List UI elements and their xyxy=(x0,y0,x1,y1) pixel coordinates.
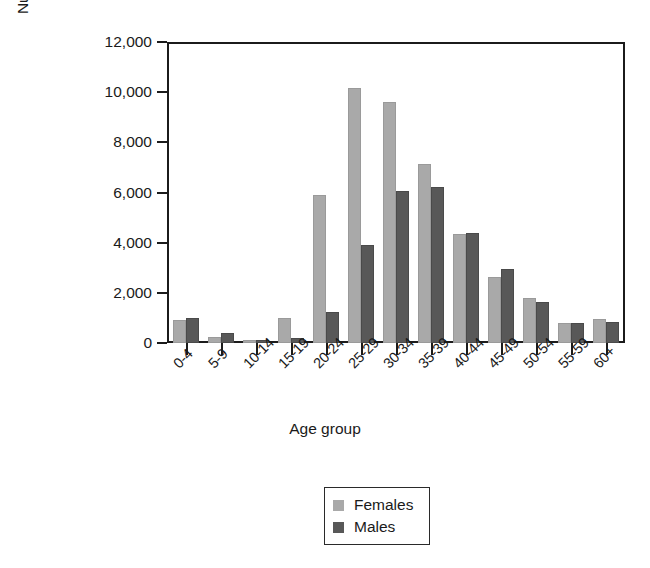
x-axis-tick-label: 5-9 xyxy=(205,346,231,372)
y-axis-tick xyxy=(157,91,167,93)
y-axis-tick-label: 0 xyxy=(56,334,152,352)
bar-group xyxy=(483,44,518,343)
bar-females-30-34 xyxy=(383,102,396,343)
bar-group xyxy=(204,44,239,343)
legend-label-females: Females xyxy=(354,496,413,514)
x-axis-tick-label: 60+ xyxy=(590,343,618,371)
bar-females-55-59 xyxy=(558,323,571,343)
y-axis-tick-label: 12,000 xyxy=(56,33,152,51)
bar-females-25-29 xyxy=(348,88,361,343)
bar-group xyxy=(413,44,448,343)
bar-males-45-49 xyxy=(501,269,514,343)
bar-males-40-44 xyxy=(466,233,479,343)
legend-swatch-males-icon xyxy=(333,522,344,533)
x-axis-tick-label: 0-4 xyxy=(170,346,196,372)
bar-females-45-49 xyxy=(488,277,501,343)
bar-group xyxy=(588,44,623,343)
legend-swatch-females-icon xyxy=(333,500,344,511)
bar-males-30-34 xyxy=(396,191,409,343)
bar-group xyxy=(518,44,553,343)
bar-group xyxy=(309,44,344,343)
bar-females-60+ xyxy=(593,319,606,343)
y-axis-tick xyxy=(157,242,167,244)
bar-females-5-9 xyxy=(208,337,221,343)
x-axis-title: Age group xyxy=(0,420,650,438)
y-axis-tick xyxy=(157,342,167,344)
bar-males-35-39 xyxy=(431,187,444,343)
bar-females-35-39 xyxy=(418,164,431,343)
bar-group xyxy=(169,44,204,343)
bar-females-50-54 xyxy=(523,298,536,343)
bar-females-0-4 xyxy=(173,320,186,343)
y-axis-tick xyxy=(157,141,167,143)
y-axis-tick xyxy=(157,41,167,43)
bar-males-60+ xyxy=(606,322,619,343)
bar-group xyxy=(553,44,588,343)
bar-groups xyxy=(169,44,623,343)
y-axis-tick-label: 2,000 xyxy=(56,284,152,302)
y-axis-tick-label: 4,000 xyxy=(56,234,152,252)
y-axis-tick xyxy=(157,192,167,194)
bar-females-10-14 xyxy=(243,340,256,343)
bar-group xyxy=(448,44,483,343)
bar-group xyxy=(274,44,309,343)
bar-group xyxy=(344,44,379,343)
bar-chart-figure: Number of cases,1986-2003 02,0004,0006,0… xyxy=(0,0,650,568)
legend-item-males: Males xyxy=(333,516,413,538)
bar-group xyxy=(379,44,414,343)
y-axis-tick-labels: 02,0004,0006,0008,00010,00012,000 xyxy=(48,0,152,568)
legend-item-females: Females xyxy=(333,494,413,516)
y-axis-tick-label: 8,000 xyxy=(56,133,152,151)
bar-females-20-24 xyxy=(313,195,326,343)
y-axis-title: Number of cases,1986-2003 xyxy=(10,0,36,68)
bar-males-0-4 xyxy=(186,318,199,343)
y-axis-tick-label: 10,000 xyxy=(56,83,152,101)
y-axis-tick xyxy=(157,292,167,294)
y-axis-tick-label: 6,000 xyxy=(56,184,152,202)
bar-males-25-29 xyxy=(361,245,374,343)
bar-females-15-19 xyxy=(278,318,291,343)
bar-females-40-44 xyxy=(453,234,466,343)
bar-group xyxy=(239,44,274,343)
legend-label-males: Males xyxy=(354,518,395,536)
bar-males-5-9 xyxy=(221,333,234,343)
legend: Females Males xyxy=(324,487,430,545)
